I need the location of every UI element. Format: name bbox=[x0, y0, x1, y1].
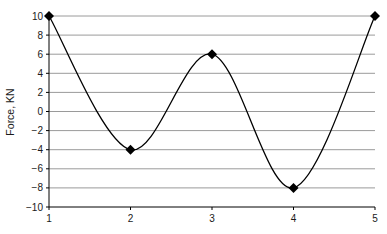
data-point-markers bbox=[44, 11, 380, 193]
force-chart: 1086420−2−4−6−8−10 12345 Force, KN bbox=[0, 0, 387, 234]
x-tick-label: 5 bbox=[372, 213, 378, 224]
x-tick-label: 1 bbox=[46, 213, 52, 224]
x-tick-label: 4 bbox=[291, 213, 297, 224]
x-tick-label: 3 bbox=[209, 213, 215, 224]
x-tick-label: 2 bbox=[128, 213, 134, 224]
y-tick-label: 2 bbox=[37, 87, 43, 98]
y-tick-label: 6 bbox=[37, 49, 43, 60]
diamond-marker-icon bbox=[44, 11, 54, 21]
y-tick-label: 4 bbox=[37, 68, 43, 79]
diamond-marker-icon bbox=[289, 183, 299, 193]
y-tick-label: −10 bbox=[26, 202, 43, 213]
y-tick-label: 8 bbox=[37, 30, 43, 41]
diamond-marker-icon bbox=[370, 11, 380, 21]
y-tick-label: −8 bbox=[32, 182, 44, 193]
y-tick-labels: 1086420−2−4−6−8−10 bbox=[26, 11, 43, 213]
diamond-marker-icon bbox=[207, 49, 217, 59]
x-tick-labels: 12345 bbox=[46, 213, 378, 224]
y-tick-label: 0 bbox=[37, 106, 43, 117]
y-tick-label: −4 bbox=[32, 144, 44, 155]
force-series-line bbox=[49, 16, 375, 188]
gridlines bbox=[46, 16, 375, 207]
y-tick-label: 10 bbox=[32, 11, 44, 22]
y-axis-title: Force, KN bbox=[4, 88, 16, 135]
diamond-marker-icon bbox=[126, 145, 136, 155]
y-tick-label: −6 bbox=[32, 163, 44, 174]
y-tick-label: −2 bbox=[32, 125, 44, 136]
